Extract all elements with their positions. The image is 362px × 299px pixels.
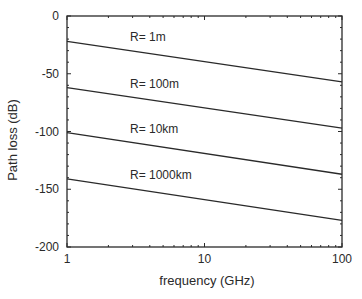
series-line <box>67 133 342 175</box>
series-label: R= 10km <box>130 122 178 136</box>
y-tick-label: -50 <box>42 67 60 81</box>
plot-frame <box>67 16 342 247</box>
y-tick-label: -150 <box>35 182 59 196</box>
series-labels: R= 1mR= 100mR= 10kmR= 1000km <box>130 30 192 181</box>
tick-labels: 1101000-50-100-150-200 <box>35 9 352 266</box>
x-tick-label: 100 <box>332 252 352 266</box>
y-tick-label: -100 <box>35 125 59 139</box>
plot-border <box>67 16 342 247</box>
series-label: R= 1000km <box>130 168 192 182</box>
series-label: R= 1m <box>130 30 166 44</box>
path-loss-chart: R= 1mR= 100mR= 10kmR= 1000km 1101000-50-… <box>0 0 362 299</box>
y-tick-label: -200 <box>35 240 59 254</box>
series-line <box>67 179 342 221</box>
y-axis-title: Path loss (dB) <box>5 99 20 181</box>
y-tick-label: 0 <box>52 9 59 23</box>
series-line <box>67 41 342 81</box>
series-lines <box>67 41 342 220</box>
x-tick-label: 1 <box>64 252 71 266</box>
x-axis-title: frequency (GHz) <box>159 273 254 288</box>
series-label: R= 100m <box>130 77 179 91</box>
series-line <box>67 88 342 128</box>
x-tick-label: 10 <box>198 252 212 266</box>
axis-ticks <box>67 16 342 247</box>
